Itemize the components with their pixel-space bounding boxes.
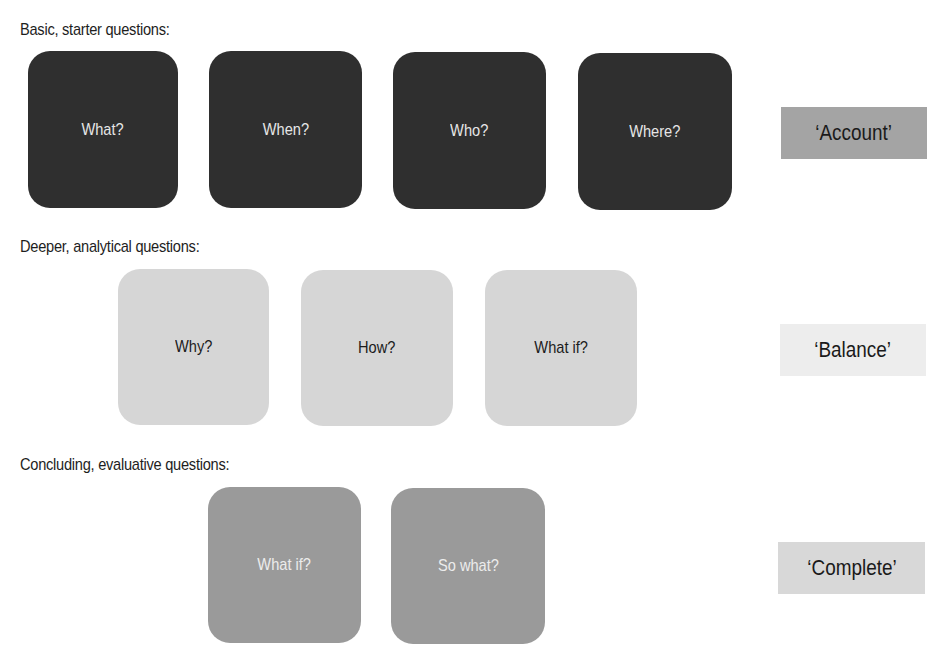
tag-complete: ‘Complete’ [778,542,925,594]
question-label: Where? [629,122,680,142]
question-label: What? [82,120,124,140]
question-label: When? [262,120,308,140]
question-box-what-if-concluding: What if? [208,487,361,643]
heading-basic-questions: Basic, starter questions: [20,20,170,40]
question-box-who: Who? [393,52,546,209]
tag-account: ‘Account’ [781,107,927,159]
question-box-what: What? [28,51,178,208]
question-box-what-if: What if? [485,270,637,426]
question-label: So what? [438,556,499,576]
tag-label: ‘Balance’ [815,337,892,363]
question-box-why: Why? [118,269,269,425]
question-box-how: How? [301,270,453,426]
question-label: What if? [534,338,588,358]
question-box-where: Where? [578,53,732,210]
heading-deeper-questions: Deeper, analytical questions: [20,237,199,257]
tag-label: ‘Complete’ [807,555,896,581]
tag-balance: ‘Balance’ [780,324,926,376]
question-label: Why? [175,337,212,357]
question-label: What if? [258,555,312,575]
question-box-so-what: So what? [391,488,545,644]
question-label: How? [358,338,395,358]
question-label: Who? [450,121,488,141]
tag-label: ‘Account’ [816,120,893,146]
question-box-when: When? [209,51,362,208]
heading-concluding-questions: Concluding, evaluative questions: [20,455,229,475]
